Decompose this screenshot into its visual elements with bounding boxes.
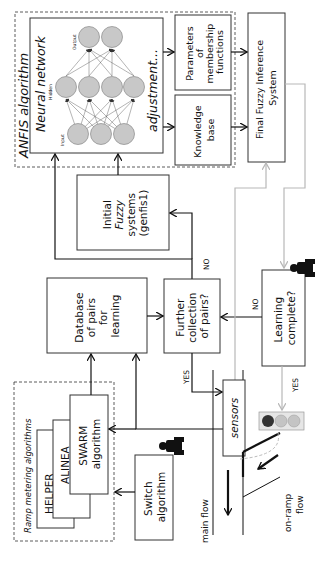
no-label-mid: NO — [251, 298, 260, 310]
switch-algorithm-box — [135, 455, 173, 540]
anfis-label: ANFIS algorithm — [16, 53, 31, 159]
ramp-group-label: Ramp metering algorithms — [23, 418, 33, 533]
traffic-lamp-red — [262, 415, 274, 427]
arrow-further-yes-to-sensors — [192, 353, 222, 392]
input-layer-label: Input — [60, 134, 65, 146]
switch-algorithm-text: Switch algorithm — [142, 472, 167, 523]
nn-node — [56, 77, 77, 98]
ramp-barrier — [243, 433, 280, 452]
swarm-text: SWARM algorithm — [77, 419, 102, 470]
main-flow-label: main flow — [200, 499, 210, 543]
feedback-sensors-to-fis — [235, 163, 266, 395]
hidden-layer-label: Hidden — [48, 84, 53, 100]
ramp-metering-anfis-diagram: ANFIS algorithm Neural network adjustmen… — [0, 0, 329, 566]
output-layer-label: Output — [72, 34, 77, 50]
knowledge-base-box — [175, 95, 231, 165]
neural-network-title: Neural network — [33, 35, 48, 132]
adjustment-label: adjustment... — [145, 49, 160, 132]
nn-node — [79, 77, 100, 98]
nn-node — [102, 77, 123, 98]
traffic-light — [259, 412, 304, 430]
nn-node — [102, 27, 123, 48]
nn-node — [91, 124, 112, 145]
sensors-label: sensors — [228, 397, 240, 438]
further-collection-text: Further collection of pairs? — [174, 289, 210, 343]
traffic-lamp-green — [288, 415, 300, 427]
arrow-no-to-initial — [170, 213, 192, 259]
feedback-fis-to-learning — [284, 84, 305, 268]
on-ramp-flow-text: on-ramp flow — [283, 491, 305, 532]
anfis-group: ANFIS algorithm Neural network adjustmen… — [15, 12, 235, 167]
on-ramp-arrow — [258, 455, 278, 469]
learning-complete-text: Learning complete? — [272, 291, 297, 346]
traffic-lamp-amber — [275, 415, 287, 427]
alinea-label: ALINEA — [59, 445, 71, 484]
yes-label-left: YES — [182, 370, 191, 385]
nn-node — [114, 124, 135, 145]
nn-node — [68, 124, 89, 145]
nn-node — [79, 27, 100, 48]
yes-label-right: YES — [291, 378, 300, 393]
swarm-box — [70, 395, 108, 494]
operator-icon-switch — [159, 437, 184, 455]
on-ramp-edge — [243, 477, 280, 497]
input-nodes — [68, 124, 135, 145]
no-label-top: NO — [202, 258, 211, 270]
nn-node — [124, 77, 145, 98]
